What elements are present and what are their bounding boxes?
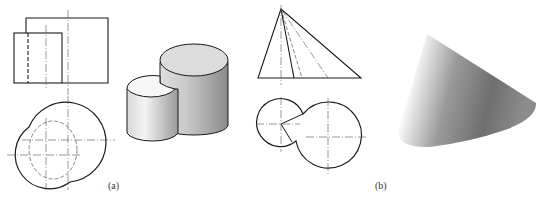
cone-generator xyxy=(281,9,294,78)
panel-label-b: (b) xyxy=(375,180,387,191)
oblique-cone xyxy=(398,34,536,147)
large-cylinder-top xyxy=(160,44,228,76)
small-cylinder-outline xyxy=(14,33,62,83)
panel-b-top-view xyxy=(256,97,368,176)
tangent-line-upper xyxy=(281,114,303,124)
panel-b-cone-render xyxy=(398,34,536,147)
panel-b-front-view xyxy=(258,5,361,85)
cone-front-outline xyxy=(258,9,361,78)
panel-label-a: (a) xyxy=(108,180,119,191)
tangent-line-lower xyxy=(281,124,292,142)
cone-top-contour xyxy=(257,99,362,168)
hidden-circle xyxy=(29,121,77,179)
panel-a-top-view xyxy=(7,96,115,190)
panel-a-front-view xyxy=(14,10,108,95)
outer-contour xyxy=(15,102,106,189)
large-cylinder-outline xyxy=(26,18,108,83)
technical-drawing-figure xyxy=(0,0,542,206)
panel-a-isometric-render xyxy=(127,44,228,141)
